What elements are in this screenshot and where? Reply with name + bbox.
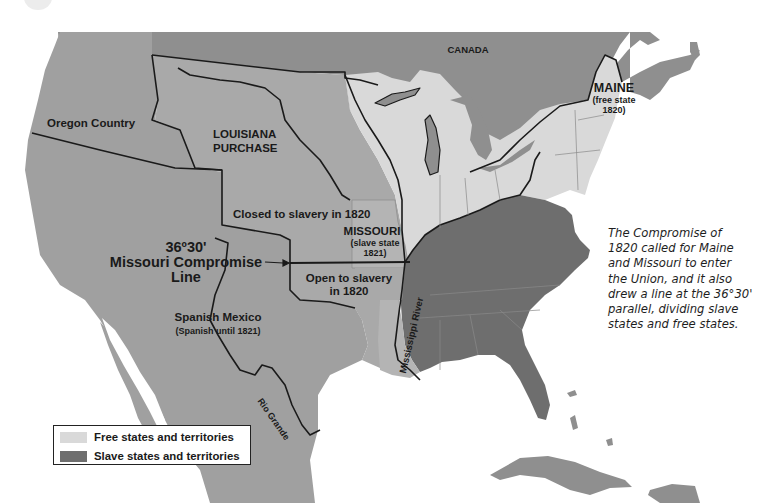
label-louisiana: LOUISIANA — [213, 129, 276, 141]
label-open-year: in 1820 — [330, 286, 369, 298]
caption-line: the Union, and it also — [608, 272, 758, 287]
label-spanish-mexico: Spanish Mexico — [175, 312, 262, 324]
legend-item-slave: Slave states and territories — [60, 450, 240, 462]
caption-line: parallel, dividing slave — [608, 302, 758, 317]
label-compromise-line-word: Line — [171, 270, 201, 285]
legend-label-free: Free states and territories — [94, 431, 234, 443]
legend-swatch-free — [60, 432, 87, 443]
label-maine-note-2: 1820) — [602, 106, 625, 115]
label-maine-note-1: (free state — [592, 96, 635, 105]
caption-line: and Missouri to enter — [608, 256, 758, 271]
label-oregon-country: Oregon Country — [47, 118, 135, 130]
label-spanish-until: (Spanish until 1821) — [175, 327, 260, 336]
legend-item-free: Free states and territories — [60, 431, 234, 443]
map-legend: Free states and territories Slave states… — [53, 425, 251, 465]
label-purchase: PURCHASE — [213, 143, 278, 155]
label-maine: MAINE — [594, 82, 634, 95]
label-open-to-slavery: Open to slavery — [306, 273, 392, 285]
caption-line: states and free states. — [608, 317, 758, 332]
map-caption: The Compromise of 1820 called for Maine … — [608, 226, 758, 332]
label-missouri: MISSOURI — [344, 226, 401, 238]
legend-swatch-slave — [60, 451, 87, 462]
cuba — [490, 456, 632, 495]
label-missouri-note-1: (slave state — [350, 239, 399, 248]
hispaniola — [648, 484, 700, 503]
caption-line: The Compromise of — [608, 226, 758, 241]
label-missouri-note-2: 1821) — [363, 249, 386, 258]
caption-line: 1820 called for Maine — [608, 241, 758, 256]
label-closed-to-slavery: Closed to slavery in 1820 — [233, 209, 370, 221]
label-canada: CANADA — [447, 45, 488, 55]
label-compromise-line-name: Missouri Compromise — [110, 255, 262, 270]
caption-line: drew a line at the 36°30' — [608, 287, 758, 302]
legend-label-slave: Slave states and territories — [94, 450, 240, 462]
label-parallel-degrees: 36º30' — [165, 240, 206, 255]
